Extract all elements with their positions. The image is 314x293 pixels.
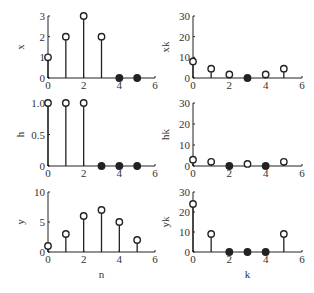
- stem-marker: [262, 71, 268, 77]
- y-tick-label: 0: [185, 160, 191, 172]
- x-axis-label: k: [245, 268, 251, 280]
- stem-marker: [98, 207, 104, 213]
- x-tick-label: 0: [190, 79, 196, 91]
- stem-marker: [63, 100, 69, 106]
- stem-marker: [63, 33, 69, 39]
- stem-marker: [190, 201, 196, 207]
- x-tick-label: 2: [81, 79, 87, 91]
- stem-marker: [98, 163, 104, 169]
- y-tick-label: 5: [40, 216, 46, 228]
- stem-marker: [208, 231, 214, 237]
- stem-marker: [244, 249, 250, 255]
- stem-marker: [45, 54, 51, 60]
- x-tick-label: 0: [190, 167, 196, 179]
- stem-marker: [208, 66, 214, 72]
- stem-plot-figure: 02460123x02460102030xk024600.51.0h024601…: [0, 0, 314, 293]
- stem-marker: [80, 13, 86, 19]
- stem-marker: [262, 163, 268, 169]
- y-tick-label: 20: [179, 118, 191, 130]
- stem-marker: [80, 100, 86, 106]
- y-tick-label: 0: [40, 72, 46, 84]
- y-tick-label: 1.0: [31, 97, 45, 109]
- stem-marker: [98, 33, 104, 39]
- y-tick-label: 0: [185, 72, 191, 84]
- stem-marker: [262, 249, 268, 255]
- stem-marker: [244, 75, 250, 81]
- stem-marker: [116, 219, 122, 225]
- stem-marker: [281, 231, 287, 237]
- subplot-y: 02460510yn: [14, 186, 158, 280]
- y-tick-label: 10: [34, 186, 46, 198]
- y-tick-label: 0: [185, 246, 191, 258]
- stem-marker: [116, 75, 122, 81]
- x-tick-label: 6: [152, 167, 158, 179]
- stem-marker: [226, 249, 232, 255]
- x-tick-label: 2: [227, 79, 233, 91]
- subplot-hk: 02460102030hk: [159, 97, 305, 179]
- y-axis-label: h: [14, 131, 26, 137]
- stem-marker: [190, 58, 196, 64]
- x-tick-label: 0: [45, 167, 51, 179]
- y-tick-label: 10: [179, 226, 191, 238]
- y-axis-label: xk: [159, 41, 171, 53]
- x-tick-label: 6: [152, 253, 158, 265]
- stem-marker: [134, 75, 140, 81]
- stem-marker: [63, 231, 69, 237]
- stem-marker: [80, 213, 86, 219]
- stem-marker: [226, 71, 232, 77]
- stem-marker: [134, 163, 140, 169]
- x-tick-label: 6: [299, 167, 305, 179]
- y-tick-label: 30: [179, 97, 191, 109]
- x-tick-label: 0: [45, 79, 51, 91]
- subplot-xk: 02460102030xk: [159, 10, 305, 91]
- stem-marker: [281, 66, 287, 72]
- x-tick-label: 4: [263, 79, 269, 91]
- y-axis-label: hk: [159, 129, 171, 141]
- y-axis-label: x: [14, 44, 26, 50]
- x-tick-label: 6: [152, 79, 158, 91]
- subplot-x: 02460123x: [14, 10, 158, 91]
- subplot-h: 024600.51.0h: [14, 97, 158, 179]
- x-tick-label: 0: [190, 253, 196, 265]
- x-tick-label: 4: [117, 253, 123, 265]
- stem-marker: [281, 159, 287, 165]
- x-tick-label: 0: [45, 253, 51, 265]
- stem-marker: [134, 237, 140, 243]
- x-tick-label: 2: [81, 167, 87, 179]
- subplot-yk: 02460102030ykk: [159, 186, 305, 280]
- x-tick-label: 6: [299, 79, 305, 91]
- y-tick-label: 10: [179, 51, 191, 63]
- y-tick-label: 20: [179, 31, 191, 43]
- x-axis-label: n: [99, 268, 105, 280]
- stem-marker: [45, 100, 51, 106]
- stem-marker: [244, 161, 250, 167]
- stem-marker: [45, 243, 51, 249]
- y-tick-label: 30: [179, 186, 191, 198]
- y-tick-label: 0: [40, 160, 46, 172]
- stem-marker: [190, 157, 196, 163]
- stem-marker: [116, 163, 122, 169]
- y-tick-label: 10: [179, 139, 191, 151]
- y-axis-label: yk: [159, 216, 171, 228]
- y-tick-label: 20: [179, 206, 191, 218]
- y-tick-label: 30: [179, 10, 191, 22]
- stem-marker: [208, 159, 214, 165]
- y-tick-label: 2: [40, 31, 46, 43]
- stem-marker: [226, 163, 232, 169]
- y-axis-label: y: [14, 219, 26, 225]
- y-tick-label: 0.5: [31, 129, 45, 141]
- x-tick-label: 6: [299, 253, 305, 265]
- y-tick-label: 3: [40, 10, 46, 22]
- x-tick-label: 2: [81, 253, 87, 265]
